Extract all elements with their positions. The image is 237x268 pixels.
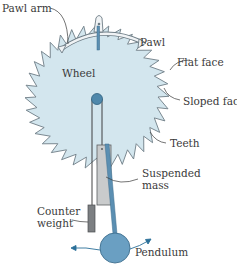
label-pendulum: Pendulum xyxy=(135,246,188,258)
counterweight xyxy=(88,205,95,232)
label-pawl-arm: Pawl arm xyxy=(2,2,52,14)
label-suspended-mass-line1: Suspended xyxy=(142,167,201,179)
pendulum-bob xyxy=(100,233,130,263)
label-sloped-face: Sloped face xyxy=(183,95,237,107)
label-flat-face: Flat face xyxy=(177,56,224,68)
label-counter-weight-line2: weight xyxy=(37,217,73,229)
label-suspended-mass-line2: mass xyxy=(142,179,169,191)
hub xyxy=(92,94,103,105)
label-teeth: Teeth xyxy=(170,137,200,149)
escapement-diagram xyxy=(0,0,237,268)
label-pawl: Pawl xyxy=(140,36,165,48)
label-counter-weight-line1: Counter xyxy=(37,205,80,217)
label-wheel: Wheel xyxy=(62,67,95,79)
